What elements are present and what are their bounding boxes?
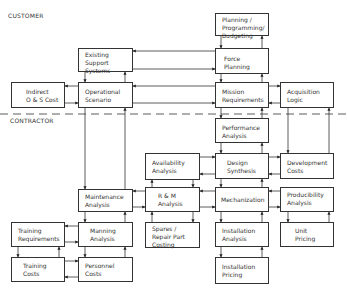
contractor-region-label: CONTRACTOR bbox=[10, 117, 54, 124]
box-training-costs: Training Costs bbox=[11, 257, 65, 282]
box-operational-scenario: Operational Scenario bbox=[78, 82, 133, 108]
box-indirect-os-cost: Indirect O & S Cost bbox=[11, 82, 65, 108]
box-design-synthesis: Design Synthesis bbox=[215, 153, 269, 179]
customer-region-label: CUSTOMER bbox=[8, 12, 44, 19]
box-personnel-costs: Personnel Costs bbox=[78, 257, 133, 282]
box-rm-analysis: R & M Analysis bbox=[145, 187, 200, 212]
box-installation-analysis: Installation Analysis bbox=[215, 222, 269, 247]
box-spares-repair-part-costing: Spares / Repair Part Costing bbox=[145, 222, 200, 248]
box-mission-requirements: Mission Requirements bbox=[215, 82, 269, 108]
box-installation-pricing: Installation Pricing bbox=[215, 257, 269, 284]
box-manning-analysis: Manning Analysis bbox=[78, 222, 133, 247]
connector-lines bbox=[0, 0, 347, 294]
box-existing-support-systems: Existing Support Systems bbox=[78, 48, 133, 72]
box-force-planning: Force Planning bbox=[215, 48, 269, 74]
box-maintenance-analysis: Maintenance Analysis bbox=[78, 189, 133, 212]
box-availability-analysis: Availability Analysis bbox=[145, 153, 200, 180]
box-mechanization: Mechanization bbox=[215, 187, 269, 212]
box-development-costs: Development Costs bbox=[280, 153, 334, 179]
box-unit-pricing: Unit Pricing bbox=[280, 222, 334, 247]
box-acquisition-logic: Acquisition Logic bbox=[280, 82, 334, 108]
box-producibility-analysis: Producibility Analysis bbox=[280, 187, 334, 212]
box-planning-programming-budgeting: Planning / Programming/ Budgeting bbox=[215, 13, 269, 36]
box-training-requirements: Training Requirements bbox=[11, 222, 65, 247]
box-performance-analysis: Performance Analysis bbox=[215, 118, 269, 143]
